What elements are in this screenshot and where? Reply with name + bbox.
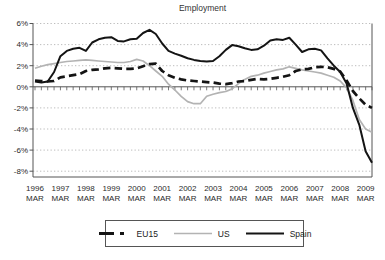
y-tick-label: -6% xyxy=(14,146,28,155)
legend-item-spain: Spain xyxy=(245,229,312,239)
series-line-spain xyxy=(35,30,372,163)
x-tick-label-month: MAR xyxy=(77,194,95,203)
x-tick-label-month: MAR xyxy=(179,194,197,203)
legend-item-us: US xyxy=(173,229,230,239)
x-tick-label-month: MAR xyxy=(204,194,222,203)
legend-item-eu15: EU15 xyxy=(98,229,158,239)
x-tick-label-year: 1997 xyxy=(52,184,70,193)
x-tick-label-year: 1999 xyxy=(102,184,120,193)
x-tick-label-month: MAR xyxy=(102,194,120,203)
legend-label-spain: Spain xyxy=(290,229,312,239)
y-tick-label: -2% xyxy=(14,104,28,113)
employment-chart: Employment 6%4%2%0%-2%-4%-6%-8%1996MAR19… xyxy=(0,0,385,260)
x-tick-label-year: 2001 xyxy=(153,184,171,193)
x-tick-label-year: 2005 xyxy=(255,184,273,193)
spain-line-sample xyxy=(245,230,285,237)
x-tick-label-month: MAR xyxy=(153,194,171,203)
us-line-sample xyxy=(173,230,213,237)
x-tick-label-year: 2004 xyxy=(230,184,248,193)
x-tick-label-month: MAR xyxy=(255,194,273,203)
legend: EU15 US Spain xyxy=(105,220,304,247)
x-tick-label-month: MAR xyxy=(357,194,375,203)
x-tick-label-month: MAR xyxy=(230,194,248,203)
x-tick-label-year: 2009 xyxy=(357,184,375,193)
x-tick-label-month: MAR xyxy=(331,194,349,203)
x-tick-label-year: 2002 xyxy=(179,184,197,193)
legend-label-eu15: EU15 xyxy=(137,229,158,239)
eu15-dashed-line-sample xyxy=(98,230,132,237)
x-tick-label-month: MAR xyxy=(128,194,146,203)
x-tick-label-year: 2000 xyxy=(128,184,146,193)
y-tick-label: -8% xyxy=(14,167,28,176)
x-tick-label-year: 1996 xyxy=(26,184,44,193)
x-tick-label-month: MAR xyxy=(306,194,324,203)
y-tick-label: 0% xyxy=(16,83,28,92)
x-tick-label-year: 2006 xyxy=(280,184,298,193)
x-tick-label-year: 2003 xyxy=(204,184,222,193)
y-tick-label: -4% xyxy=(14,125,28,134)
y-tick-label: 2% xyxy=(16,62,28,71)
x-tick-label-month: MAR xyxy=(52,194,70,203)
x-tick-label-month: MAR xyxy=(26,194,44,203)
x-tick-label-year: 1998 xyxy=(77,184,95,193)
y-tick-label: 4% xyxy=(16,40,28,49)
legend-label-us: US xyxy=(218,229,230,239)
x-tick-label-year: 2007 xyxy=(306,184,324,193)
y-tick-label: 6% xyxy=(16,19,28,28)
x-tick-label-year: 2008 xyxy=(331,184,349,193)
x-tick-label-month: MAR xyxy=(280,194,298,203)
